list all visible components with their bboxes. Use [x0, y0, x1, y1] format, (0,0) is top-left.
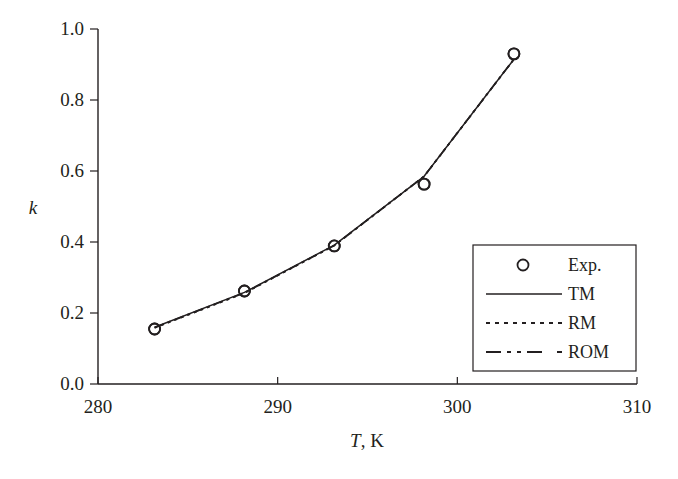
legend-label: Exp.	[568, 255, 602, 275]
y-tick-label: 0.2	[60, 302, 84, 323]
exp-data-point	[508, 48, 519, 59]
x-tick-label: 310	[623, 396, 652, 417]
legend-label: TM	[568, 284, 595, 304]
series-line-rm	[155, 59, 514, 328]
y-tick-label: 0.4	[60, 231, 84, 252]
exp-data-point	[149, 323, 160, 334]
x-tick-label: 300	[443, 396, 472, 417]
legend: Exp.TMRMROM	[473, 245, 636, 371]
series-line-tm	[155, 59, 514, 327]
y-axis-label: k	[29, 197, 38, 218]
x-axis-label: T, K	[350, 430, 384, 451]
x-tick-label: 280	[84, 396, 113, 417]
line-chart: 0.00.20.40.60.81.0280290300310T, Kk Exp.…	[0, 0, 678, 479]
series-line-rom	[155, 59, 514, 327]
legend-label: ROM	[568, 342, 609, 362]
y-tick-label: 0.8	[60, 89, 84, 110]
series-group	[149, 48, 519, 334]
y-tick-label: 0.0	[60, 373, 84, 394]
exp-data-point	[419, 179, 430, 190]
legend-label: RM	[568, 313, 596, 333]
y-tick-label: 0.6	[60, 160, 84, 181]
axes: 0.00.20.40.60.81.0280290300310T, Kk	[29, 18, 651, 451]
y-tick-label: 1.0	[60, 18, 84, 39]
x-tick-label: 290	[263, 396, 292, 417]
